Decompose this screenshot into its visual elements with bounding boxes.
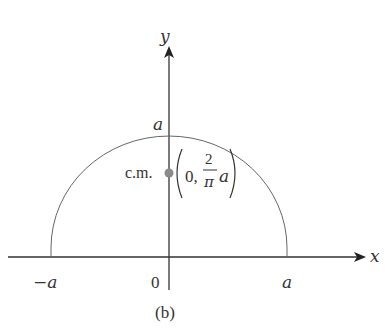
x-tick-a: a	[282, 272, 292, 292]
svg-text:π: π	[203, 173, 215, 191]
right-paren	[230, 149, 235, 198]
left-paren	[177, 149, 182, 198]
cm-label: c.m.	[125, 164, 153, 181]
cm-coordinate: 0, 2 π a	[177, 149, 235, 198]
center-of-mass-dot	[165, 169, 174, 178]
y-tick-a: a	[153, 114, 163, 134]
x-axis-label: x	[370, 246, 380, 266]
svg-text:0,: 0,	[185, 167, 198, 186]
y-axis-label: y	[159, 26, 170, 46]
svg-text:a: a	[219, 166, 229, 186]
svg-text:2: 2	[205, 151, 213, 167]
x-tick-zero: 0	[151, 273, 160, 292]
figure-caption: (b)	[155, 303, 175, 322]
diagram-canvas: y x a −a 0 a c.m. 0, 2 π a (b)	[0, 0, 389, 330]
x-tick-neg-a: −a	[33, 272, 57, 292]
